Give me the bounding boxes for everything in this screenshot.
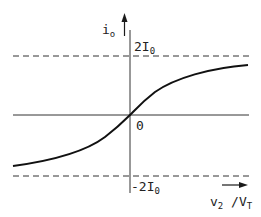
y-axis-arrow-head-icon [122, 13, 128, 22]
upper-asymptote-label: 2I0 [134, 39, 155, 56]
x-axis-label: v2 /VT [210, 194, 253, 211]
transfer-characteristic-diagram: io 2I0 0 -2I0 v2 /VT [0, 0, 261, 217]
origin-label: 0 [136, 118, 144, 133]
lower-asymptote-label: -2I0 [131, 179, 160, 196]
x-axis-arrow-head-icon [239, 182, 248, 188]
y-axis-label: io [102, 22, 115, 39]
